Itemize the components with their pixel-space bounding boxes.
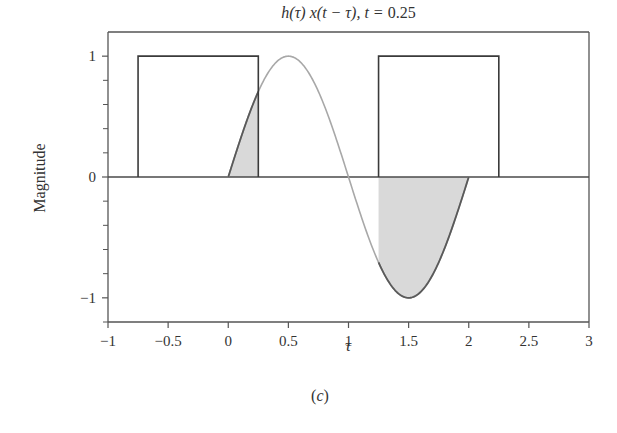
y-tick-label: 1 bbox=[89, 48, 97, 64]
figure-caption: (c) bbox=[311, 387, 329, 405]
shaded-region-2 bbox=[379, 177, 469, 298]
y-axis-label: Magnitude bbox=[31, 143, 49, 212]
x-tick-label: −0.5 bbox=[155, 333, 182, 349]
x-tick-label: 0.5 bbox=[279, 333, 298, 349]
figure: h(τ) x(t − τ), t = 0.25 −1−0.500.511.522… bbox=[0, 0, 617, 433]
x-tick-label: −1 bbox=[100, 333, 116, 349]
x-tick-label: 2 bbox=[465, 333, 473, 349]
x-tick-label: 0 bbox=[225, 333, 233, 349]
x-tick-label: 2.5 bbox=[520, 333, 539, 349]
y-tick-label: 0 bbox=[89, 169, 97, 185]
plot-area: −1−0.500.511.522.53−101 bbox=[0, 0, 617, 433]
pulse-rectangle-2 bbox=[379, 56, 499, 177]
x-tick-label: 3 bbox=[585, 333, 593, 349]
y-tick-label: −1 bbox=[80, 290, 96, 306]
x-tick-label: 1.5 bbox=[399, 333, 418, 349]
x-axis-label: τ bbox=[345, 336, 351, 356]
caption-paren-close: ) bbox=[324, 387, 329, 404]
